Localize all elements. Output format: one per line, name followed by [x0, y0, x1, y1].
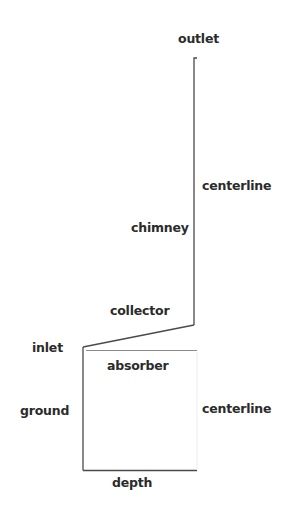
- label-inlet: inlet: [32, 341, 63, 355]
- label-centerline-upper: centerline: [202, 179, 271, 193]
- label-chimney: chimney: [131, 221, 189, 235]
- label-ground: ground: [20, 404, 69, 418]
- label-collector: collector: [110, 304, 169, 318]
- diagram-lines: [0, 0, 293, 514]
- diagram-canvas: outlet centerline chimney collector inle…: [0, 0, 293, 514]
- label-depth: depth: [112, 476, 152, 490]
- chimney-wall: [194, 58, 197, 325]
- label-absorber: absorber: [107, 359, 169, 373]
- label-outlet: outlet: [178, 32, 219, 46]
- label-centerline-lower: centerline: [202, 402, 271, 416]
- collector-roof: [83, 325, 194, 347]
